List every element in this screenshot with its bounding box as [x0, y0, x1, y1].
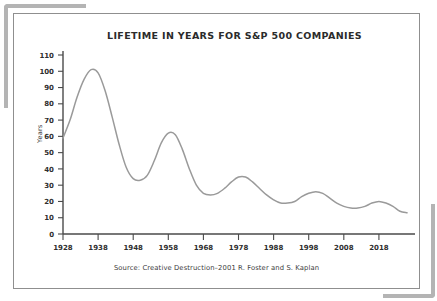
chart-card: LIFETIME IN YEARS FOR S&P 500 COMPANIES …: [13, 13, 420, 289]
x-tick-label: 1928: [53, 244, 73, 252]
y-axis-tick-group: 0102030405060708090100110: [39, 52, 63, 239]
x-tick-label: 1988: [264, 244, 284, 252]
plot-area: Years 0102030405060708090100110 19281938…: [14, 14, 421, 290]
y-tick-label: 60: [44, 133, 54, 141]
x-axis-tick-group: 1928193819481958196819781988199820082018: [53, 234, 389, 252]
figure-root: LIFETIME IN YEARS FOR S&P 500 COMPANIES …: [0, 0, 437, 301]
line-chart-svg: 0102030405060708090100110 19281938194819…: [14, 14, 421, 290]
x-tick-label: 2018: [369, 244, 389, 252]
x-tick-label: 1958: [159, 244, 179, 252]
x-tick-label: 1948: [123, 244, 143, 252]
x-tick-label: 1968: [194, 244, 214, 252]
y-tick-label: 50: [44, 149, 54, 157]
y-axis-label: Years: [36, 124, 44, 143]
x-tick-label: 1978: [229, 244, 249, 252]
y-tick-label: 90: [44, 84, 54, 92]
y-tick-label: 10: [44, 214, 54, 222]
y-tick-label: 0: [49, 231, 54, 239]
y-tick-label: 30: [44, 182, 54, 190]
x-tick-label: 1938: [88, 244, 108, 252]
y-tick-label: 110: [39, 52, 54, 60]
data-series-line: [63, 69, 407, 213]
source-caption: Source: Creative Destruction–2001 R. Fos…: [14, 264, 419, 272]
y-tick-label: 70: [44, 117, 54, 125]
x-tick-label: 1998: [299, 244, 319, 252]
y-tick-label: 40: [44, 166, 54, 174]
x-tick-label: 2008: [334, 244, 354, 252]
y-tick-label: 100: [39, 68, 54, 76]
y-tick-label: 20: [44, 198, 54, 206]
y-tick-label: 80: [44, 100, 54, 108]
